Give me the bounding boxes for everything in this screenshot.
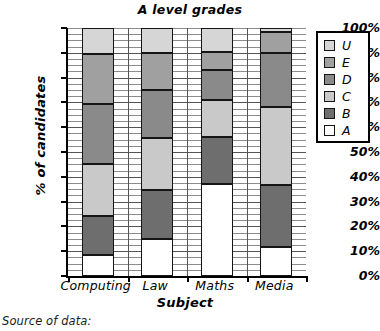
bar-segment-c[interactable]	[201, 100, 233, 137]
bar-segment-c[interactable]	[82, 164, 114, 216]
legend-label: E	[342, 57, 350, 69]
bar-segment-u[interactable]	[141, 28, 173, 53]
chart-title: A level grades	[75, 2, 305, 17]
legend-item-d[interactable]: D	[318, 71, 368, 88]
bar-segment-b[interactable]	[201, 137, 233, 184]
vertical-gridline	[187, 28, 188, 276]
legend-label: C	[342, 91, 351, 103]
bar-segment-d[interactable]	[141, 90, 173, 138]
chart-figure: A level grades % of candidates 0%10%20%3…	[0, 0, 380, 331]
legend-swatch-icon	[324, 125, 335, 136]
legend-swatch-icon	[324, 91, 335, 102]
bar-segment-d[interactable]	[82, 104, 114, 165]
y-tick-label: 30%	[316, 196, 380, 208]
bar-segment-e[interactable]	[201, 52, 233, 71]
legend-item-e[interactable]: E	[318, 54, 368, 71]
y-tick-label: 10%	[316, 245, 380, 257]
source-note: Source of data:	[2, 314, 91, 328]
bar-segment-c[interactable]	[260, 107, 292, 185]
legend-label: U	[342, 40, 351, 52]
legend-box[interactable]: UEDCBA	[316, 31, 370, 143]
bar-segment-a[interactable]	[82, 255, 114, 276]
x-category-media: Media	[229, 278, 319, 293]
bar-segment-e[interactable]	[141, 53, 173, 90]
legend-item-c[interactable]: C	[318, 88, 368, 105]
bar-segment-e[interactable]	[260, 32, 292, 53]
bar-segment-a[interactable]	[141, 239, 173, 276]
vertical-gridline	[128, 28, 129, 276]
plot-area	[66, 28, 306, 278]
y-tick-label: 20%	[316, 220, 380, 232]
bar-segment-e[interactable]	[82, 54, 114, 104]
bar-column[interactable]	[260, 28, 292, 276]
y-axis-label: % of candidates	[33, 36, 48, 236]
bar-segment-b[interactable]	[141, 190, 173, 238]
bar-segment-a[interactable]	[260, 247, 292, 276]
y-tick-label: 40%	[316, 171, 380, 183]
legend-item-b[interactable]: B	[318, 105, 368, 122]
bar-segment-u[interactable]	[82, 28, 114, 54]
legend-swatch-icon	[324, 108, 335, 119]
legend-swatch-icon	[324, 57, 335, 68]
legend-label: A	[342, 125, 351, 137]
legend-swatch-icon	[324, 74, 335, 85]
y-tick-label: 0%	[316, 270, 380, 282]
bar-segment-d[interactable]	[201, 70, 233, 100]
bar-segment-a[interactable]	[201, 184, 233, 276]
legend-label: B	[342, 108, 351, 120]
bar-column[interactable]	[82, 28, 114, 276]
bar-column[interactable]	[141, 28, 173, 276]
y-tick-label: 50%	[316, 146, 380, 158]
legend-item-u[interactable]: U	[318, 37, 368, 54]
x-axis-label: Subject	[66, 295, 304, 310]
legend-item-a[interactable]: A	[318, 122, 368, 139]
legend-swatch-icon	[324, 40, 335, 51]
bar-segment-b[interactable]	[82, 216, 114, 254]
legend-label: D	[342, 74, 352, 86]
bar-column[interactable]	[201, 28, 233, 276]
bar-segment-u[interactable]	[260, 28, 292, 32]
bar-segment-d[interactable]	[260, 53, 292, 108]
bar-segment-c[interactable]	[141, 138, 173, 190]
bar-segment-b[interactable]	[260, 185, 292, 247]
vertical-gridline	[247, 28, 248, 276]
bar-segment-u[interactable]	[201, 28, 233, 52]
